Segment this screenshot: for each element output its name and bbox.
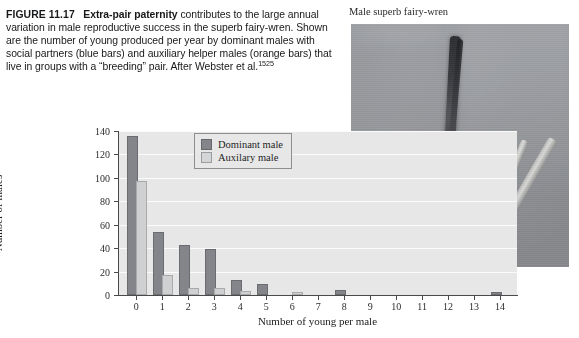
bar-auxilary-x2 xyxy=(188,288,199,295)
legend-label-dominant-male: Dominant male xyxy=(218,139,283,150)
x-tick-label-1: 1 xyxy=(152,301,172,312)
x-tick-label-9: 9 xyxy=(360,301,380,312)
legend-label-auxilary-male: Auxilary male xyxy=(218,152,278,163)
y-tick-label-60: 60 xyxy=(84,219,110,230)
x-tick-label-12: 12 xyxy=(438,301,458,312)
bar-dominant-x3 xyxy=(205,249,216,296)
x-tick-mark-0 xyxy=(136,296,137,300)
x-tick-mark-8 xyxy=(344,296,345,300)
bar-dominant-x8 xyxy=(335,290,346,296)
legend-swatch-dominant-male xyxy=(201,139,212,150)
bar-dominant-x5 xyxy=(257,284,268,295)
x-tick-mark-6 xyxy=(292,296,293,300)
bar-dominant-x2 xyxy=(179,245,190,295)
x-tick-mark-9 xyxy=(370,296,371,300)
y-tick-label-100: 100 xyxy=(84,172,110,183)
caption-lead-phrase: Extra-pair paternity xyxy=(83,9,177,20)
y-tick-mark-100 xyxy=(114,178,118,179)
caption-reference-superscript: 1525 xyxy=(258,59,274,68)
x-tick-mark-3 xyxy=(214,296,215,300)
figure-caption: FIGURE 11.17 Extra-pair paternity contri… xyxy=(6,8,338,73)
x-tick-mark-11 xyxy=(422,296,423,300)
x-tick-mark-5 xyxy=(266,296,267,300)
bar-auxilary-x6 xyxy=(292,292,303,295)
x-axis-line xyxy=(118,295,518,296)
x-tick-label-13: 13 xyxy=(464,301,484,312)
bar-dominant-x1 xyxy=(153,232,164,295)
y-tick-label-40: 40 xyxy=(84,243,110,254)
superb-fairy-wren-photograph xyxy=(351,24,569,267)
x-tick-mark-12 xyxy=(448,296,449,300)
x-tick-label-11: 11 xyxy=(412,301,432,312)
x-tick-mark-1 xyxy=(162,296,163,300)
y-tick-mark-40 xyxy=(114,248,118,249)
x-tick-mark-4 xyxy=(240,296,241,300)
bar-auxilary-x0 xyxy=(136,181,147,295)
x-tick-label-7: 7 xyxy=(308,301,328,312)
bar-dominant-x14 xyxy=(491,292,502,295)
photo-film-grain xyxy=(351,24,569,267)
y-tick-mark-0 xyxy=(114,295,118,296)
y-tick-mark-120 xyxy=(114,154,118,155)
x-tick-mark-13 xyxy=(474,296,475,300)
y-tick-label-120: 120 xyxy=(84,149,110,160)
y-axis-line xyxy=(118,131,119,296)
y-tick-mark-60 xyxy=(114,225,118,226)
bar-auxilary-x1 xyxy=(162,275,173,295)
x-tick-mark-10 xyxy=(396,296,397,300)
bar-auxilary-x3 xyxy=(214,288,225,295)
y-tick-label-0: 0 xyxy=(84,290,110,301)
photo-title: Male superb fairy-wren xyxy=(349,6,448,17)
y-tick-mark-80 xyxy=(114,201,118,202)
x-axis-label: Number of young per male xyxy=(118,315,517,327)
y-tick-mark-20 xyxy=(114,272,118,273)
x-tick-label-8: 8 xyxy=(334,301,354,312)
gridline-y-20 xyxy=(118,272,517,273)
bar-dominant-x0 xyxy=(127,136,138,295)
y-tick-label-140: 140 xyxy=(84,126,110,137)
x-tick-label-2: 2 xyxy=(178,301,198,312)
y-tick-mark-140 xyxy=(114,131,118,132)
bar-dominant-x4 xyxy=(231,280,242,295)
x-tick-label-6: 6 xyxy=(282,301,302,312)
x-tick-label-10: 10 xyxy=(386,301,406,312)
y-tick-label-20: 20 xyxy=(84,266,110,277)
x-tick-label-3: 3 xyxy=(204,301,224,312)
chart-legend: Dominant male Auxilary male xyxy=(194,133,292,169)
x-tick-label-14: 14 xyxy=(490,301,510,312)
bar-auxilary-x4 xyxy=(240,291,251,295)
y-tick-label-80: 80 xyxy=(84,196,110,207)
legend-item-auxilary-male: Auxilary male xyxy=(201,151,283,164)
x-tick-mark-2 xyxy=(188,296,189,300)
x-tick-mark-14 xyxy=(500,296,501,300)
x-tick-label-5: 5 xyxy=(256,301,276,312)
x-tick-label-4: 4 xyxy=(230,301,250,312)
figure-number: FIGURE 11.17 xyxy=(6,9,75,20)
x-tick-label-0: 0 xyxy=(126,301,146,312)
legend-swatch-auxilary-male xyxy=(201,152,212,163)
legend-item-dominant-male: Dominant male xyxy=(201,138,283,151)
x-tick-mark-7 xyxy=(318,296,319,300)
y-axis-label: Number of males xyxy=(0,175,4,251)
